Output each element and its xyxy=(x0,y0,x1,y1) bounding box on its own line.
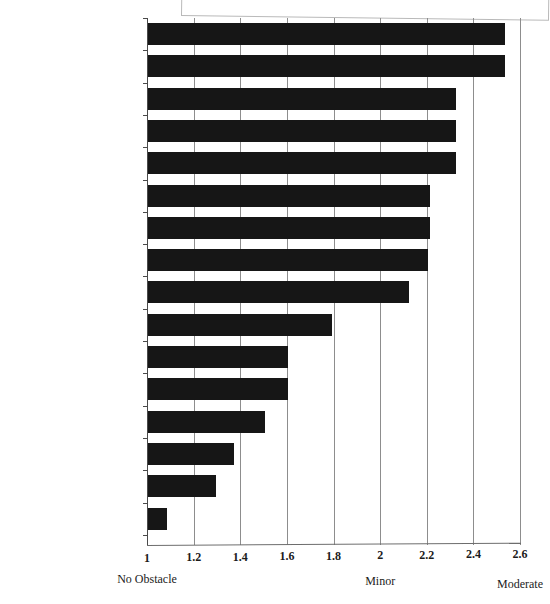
x-tick-label: 1.6 xyxy=(279,549,294,564)
bar-row: Finance xyxy=(147,244,520,276)
x-tick-label: 1.4 xyxy=(233,550,248,565)
x-tick-label: 2 xyxy=(377,548,383,563)
x-tick-label: 2.6 xyxy=(513,547,528,562)
scale-anchor-label: Moderate xyxy=(497,577,543,592)
bar xyxy=(148,443,234,465)
bar xyxy=(148,475,216,497)
bar-row: High Level of Taxes xyxy=(147,276,520,308)
bar xyxy=(148,314,332,336)
bar-row: Political Uncertainty xyxy=(147,50,520,82)
bar-row: Production and Technology xyxy=(147,341,520,373)
bar xyxy=(148,346,288,368)
bar-row: Sales xyxy=(147,373,520,405)
bar xyxy=(148,185,430,207)
bar xyxy=(148,508,167,530)
x-tick-label: 2.2 xyxy=(419,548,434,563)
y-tick-mark xyxy=(143,535,148,536)
x-tick-label: 1.8 xyxy=(326,549,341,564)
plot-area: Inflation/ Price InstabilityPolitical Un… xyxy=(147,18,520,545)
bar-row: Functioning of Judicial System xyxy=(147,406,520,438)
x-tick-label: 2.4 xyxy=(466,547,481,562)
bar-row: Human Resources xyxy=(147,212,520,244)
scale-anchor-label: Minor xyxy=(365,574,395,589)
bar xyxy=(148,23,505,45)
bar-row: Inflation/ Price Instability xyxy=(147,18,520,50)
bar xyxy=(148,120,456,142)
bar xyxy=(148,88,456,110)
bar-row: Exchange Rate xyxy=(147,83,520,115)
bar xyxy=(148,378,288,400)
bar-row: Infrastructure xyxy=(147,180,520,212)
bar-row: Problems of Security xyxy=(147,147,520,179)
bar xyxy=(148,249,428,271)
bar-row: Professional Services xyxy=(147,470,520,502)
bar xyxy=(148,281,409,303)
x-tick-label: 1 xyxy=(144,551,150,566)
bar-row: Regulations xyxy=(147,309,520,341)
bar-row: Policy Uncertainty xyxy=(147,115,520,147)
bar-row: Quality/ Capacity Airports/Ports xyxy=(147,503,520,535)
bar-row: Acquiring Inputs xyxy=(147,438,520,470)
x-tick-label: 1.2 xyxy=(186,550,201,565)
scale-anchor-label: No Obstacle xyxy=(117,572,177,587)
bar xyxy=(148,217,430,239)
bar xyxy=(148,152,456,174)
bar xyxy=(148,411,265,433)
bar xyxy=(148,55,505,77)
gridline-2.6 xyxy=(520,18,521,545)
